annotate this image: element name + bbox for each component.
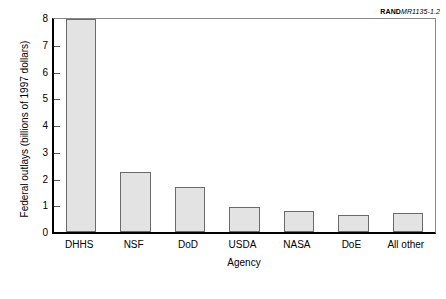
- x-axis-tick-label: DoD: [161, 238, 215, 252]
- y-axis-tick-mark: [54, 73, 60, 74]
- y-axis-tick-mark: [54, 126, 60, 127]
- bar-chart-figure: RANDMR1135-1.2 Federal outlays (billions…: [0, 0, 446, 299]
- y-axis-tick-label: 0: [32, 228, 48, 238]
- bar: [338, 215, 368, 232]
- bar: [66, 19, 96, 232]
- bar: [175, 187, 205, 232]
- y-axis-tick-label: 6: [32, 68, 48, 78]
- y-axis-tick-label: 4: [32, 121, 48, 131]
- y-axis-tick-label: 5: [32, 94, 48, 104]
- y-axis-tick-label: 8: [32, 14, 48, 24]
- y-axis-tick-labels: 012345678: [32, 18, 48, 234]
- y-axis-tick-label: 7: [32, 41, 48, 51]
- rand-report-identifier: RANDMR1135-1.2: [380, 7, 440, 16]
- y-axis-tick-label: 3: [32, 148, 48, 158]
- y-axis-title: Federal outlays (billions of 1997 dollar…: [18, 18, 32, 240]
- y-axis-tick-mark: [54, 153, 60, 154]
- bar: [120, 172, 150, 232]
- x-axis-tick-label: DHHS: [52, 238, 106, 252]
- x-axis-tick-label: DoE: [324, 238, 378, 252]
- bar: [393, 213, 423, 232]
- x-axis-tick-label: USDA: [215, 238, 269, 252]
- plot-inner-area: [54, 19, 435, 232]
- y-axis-tick-label: 2: [32, 175, 48, 185]
- y-axis-tick-mark: [54, 206, 60, 207]
- y-axis-tick-mark: [54, 180, 60, 181]
- x-axis-tick-label: All other: [379, 238, 433, 252]
- x-axis-title: Agency: [52, 256, 436, 270]
- bar: [284, 211, 314, 232]
- rand-document-number: MR1135-1.2: [401, 8, 440, 15]
- bar: [229, 207, 259, 232]
- y-axis-tick-mark: [54, 99, 60, 100]
- x-axis-tick-labels: DHHSNSFDoDUSDANASADoEAll other: [52, 238, 436, 252]
- rand-logo-text: RAND: [380, 8, 401, 15]
- x-axis-tick-label: NASA: [270, 238, 324, 252]
- x-axis-tick-label: NSF: [106, 238, 160, 252]
- y-axis-tick-mark: [54, 46, 60, 47]
- y-axis-tick-label: 1: [32, 201, 48, 211]
- plot-area: [52, 18, 436, 234]
